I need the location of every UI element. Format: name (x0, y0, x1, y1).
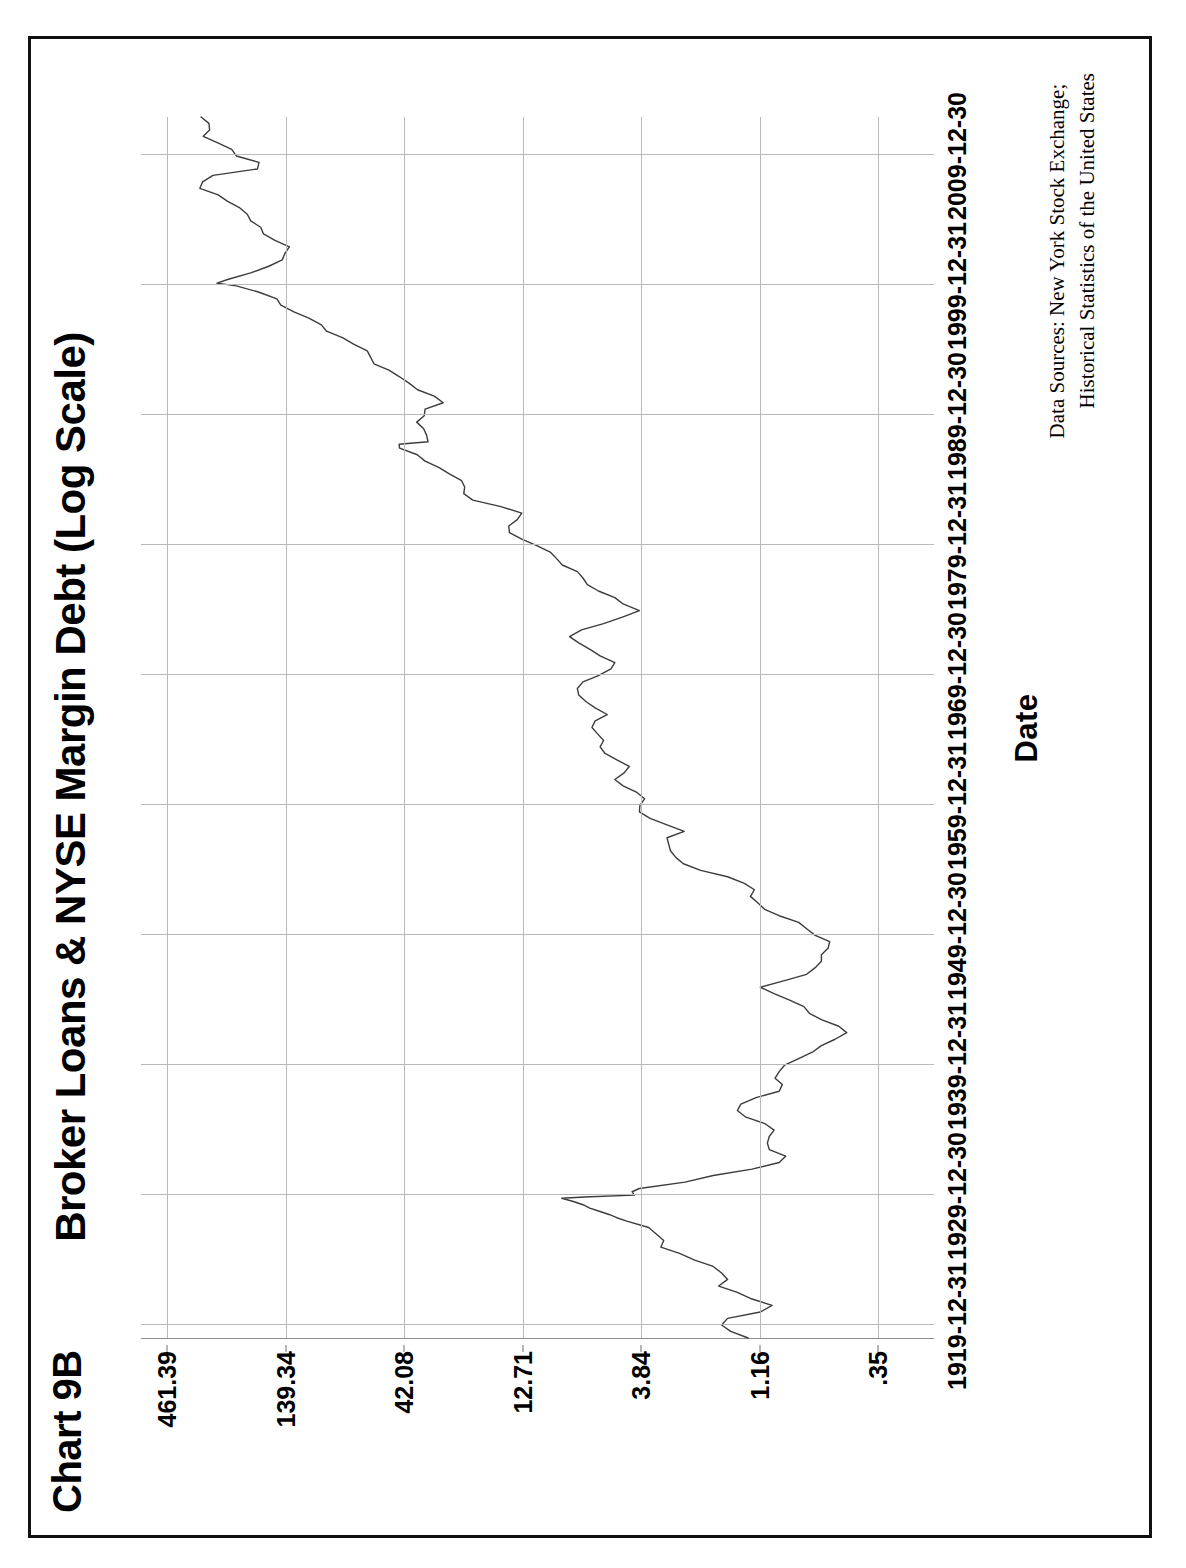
horizontal-gridline (760, 117, 761, 1338)
margin-debt-line-series (141, 117, 934, 1338)
plot-area-wrapper (141, 117, 934, 1339)
vertical-gridline (141, 544, 934, 545)
y-axis-tick-mark (285, 1345, 286, 1352)
y-axis-tick-label: 3.84 (627, 1351, 656, 1400)
horizontal-gridline (286, 117, 287, 1338)
y-axis-tick-mark (167, 1345, 168, 1352)
vertical-gridline (141, 1324, 934, 1325)
source-line-2: Historical Statistics of the United Stat… (1073, 73, 1103, 438)
source-line-1: Data Sources: New York Stock Exchange; (1043, 73, 1073, 438)
y-axis-tick-mark (404, 1345, 405, 1352)
vertical-gridline (141, 1194, 934, 1195)
y-axis-tick-labels: 461.39139.3442.0812.713.841.16.35 (141, 1345, 934, 1535)
x-axis-tick-label: 1969-12-30 (943, 612, 972, 740)
scanned-page: Chart 9B Broker Loans & NYSE Margin Debt… (0, 0, 1186, 1568)
x-axis-tick-label: 1919-12-31 (943, 1262, 972, 1390)
vertical-gridline (141, 674, 934, 675)
x-axis-title: Date (1009, 117, 1045, 1339)
x-axis-tick-label: 1979-12-31 (943, 482, 972, 610)
x-axis-tick-label: 1929-12-30 (943, 1132, 972, 1260)
plot-area (141, 117, 934, 1339)
y-axis-tick-mark (641, 1345, 642, 1352)
y-axis-tick-label: 42.08 (390, 1351, 419, 1414)
horizontal-gridline (404, 117, 405, 1338)
x-axis-tick-label: 1949-12-30 (943, 872, 972, 1000)
x-axis-tick-labels: 1919-12-311929-12-301939-12-311949-12-30… (943, 117, 997, 1339)
vertical-gridline (141, 934, 934, 935)
y-axis-tick-label: 1.16 (745, 1351, 774, 1400)
vertical-gridline (141, 414, 934, 415)
chart-title: Broker Loans & NYSE Margin Debt (Log Sca… (47, 39, 95, 1535)
x-axis-tick-label: 1939-12-31 (943, 1002, 972, 1130)
vertical-gridline (141, 284, 934, 285)
horizontal-gridline (641, 117, 642, 1338)
x-axis-tick-label: 1999-12-31 (943, 222, 972, 350)
y-axis-tick-label: 139.34 (271, 1351, 300, 1427)
x-axis-tick-label: 1989-12-30 (943, 352, 972, 480)
horizontal-gridline (167, 117, 168, 1338)
y-axis-tick-label: .35 (864, 1351, 893, 1386)
vertical-gridline (141, 1064, 934, 1065)
data-source-note: Data Sources: New York Stock Exchange; H… (1043, 73, 1103, 438)
horizontal-gridline (523, 117, 524, 1338)
page-border-frame: Chart 9B Broker Loans & NYSE Margin Debt… (28, 36, 1152, 1538)
y-axis-tick-label: 461.39 (153, 1351, 182, 1427)
y-axis-tick-label: 12.71 (508, 1351, 537, 1414)
x-axis-tick-label: 1959-12-31 (943, 742, 972, 870)
x-axis-tick-label: 2009-12-30 (943, 92, 972, 220)
vertical-gridline (141, 154, 934, 155)
y-axis-tick-mark (522, 1345, 523, 1352)
y-axis-tick-mark (878, 1345, 879, 1352)
vertical-gridline (141, 804, 934, 805)
y-axis-tick-mark (759, 1345, 760, 1352)
horizontal-gridline (878, 117, 879, 1338)
